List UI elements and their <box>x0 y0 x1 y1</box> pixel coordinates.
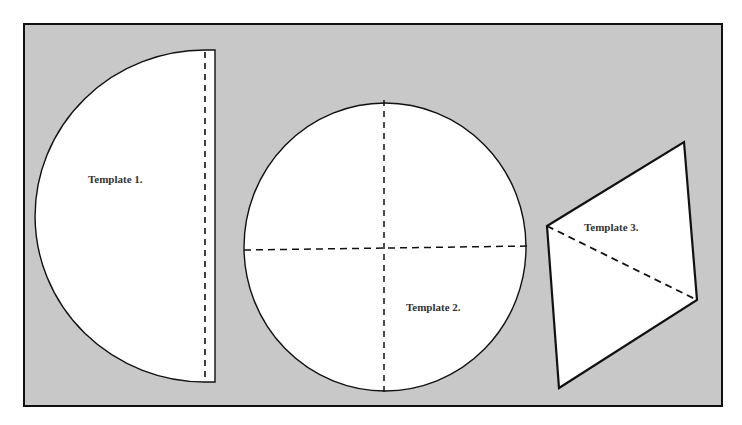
template-2-shape <box>244 103 526 391</box>
template-1-label: Template 1. <box>88 173 143 185</box>
templates-diagram: Template 1. Template 2. Template 3. <box>0 0 742 425</box>
template-2-label: Template 2. <box>406 301 461 313</box>
template-3-label: Template 3. <box>584 221 639 233</box>
